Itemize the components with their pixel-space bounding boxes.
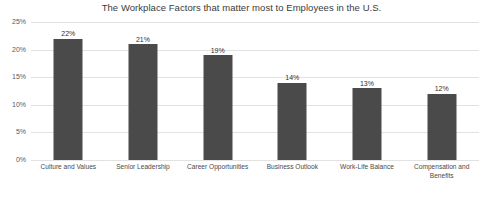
- bars-layer: 22%21%19%14%13%12%: [31, 22, 479, 160]
- bar-group: 19%: [180, 22, 255, 160]
- bar: [203, 55, 232, 160]
- bar-chart: The Workplace Factors that matter most t…: [0, 0, 483, 197]
- x-axis-tick-label: Senior Leadership: [106, 163, 181, 172]
- x-axis-tick-label: Career Opportunities: [180, 163, 255, 172]
- x-axis-tick-label: Culture and Values: [31, 163, 106, 172]
- bar-group: 13%: [330, 22, 405, 160]
- y-axis-tick-label: 10%: [0, 101, 26, 108]
- x-axis-tick-label: Business Outlook: [255, 163, 330, 172]
- bar-value-label: 19%: [211, 47, 225, 54]
- y-axis-tick-label: 15%: [0, 73, 26, 80]
- bar: [427, 94, 456, 160]
- x-axis-tick-label: Compensation and Benefits: [404, 163, 479, 180]
- bar-value-label: 12%: [435, 85, 449, 92]
- y-axis-tick-label: 20%: [0, 46, 26, 53]
- bar-value-label: 14%: [285, 74, 299, 81]
- bar-group: 12%: [404, 22, 479, 160]
- bar-value-label: 21%: [136, 36, 150, 43]
- bar-group: 21%: [106, 22, 181, 160]
- bar-group: 22%: [31, 22, 106, 160]
- bar: [54, 39, 83, 160]
- bar-value-label: 22%: [61, 30, 75, 37]
- bar: [352, 88, 381, 160]
- x-axis-tick-label: Work-Life Balance: [330, 163, 405, 172]
- x-axis-labels: Culture and ValuesSenior LeadershipCaree…: [31, 163, 479, 195]
- bar-group: 14%: [255, 22, 330, 160]
- y-axis-tick-label: 0%: [0, 156, 26, 163]
- chart-title: The Workplace Factors that matter most t…: [0, 2, 483, 13]
- bar-value-label: 13%: [360, 80, 374, 87]
- bar: [278, 83, 307, 160]
- y-axis-tick-label: 25%: [0, 18, 26, 25]
- y-axis-tick-label: 5%: [0, 128, 26, 135]
- gridline: [31, 160, 479, 161]
- bar: [128, 44, 157, 160]
